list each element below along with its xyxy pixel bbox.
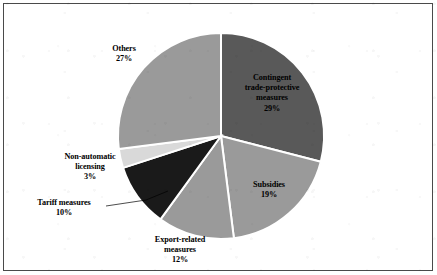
pie-label-others: Others 27%	[88, 44, 160, 64]
chart-page: Contingent trade-protective measures 29%…	[0, 0, 437, 275]
pie-label-contingent: Contingent trade-protective measures 29%	[228, 73, 316, 114]
pie-chart: Contingent trade-protective measures 29%…	[0, 0, 437, 275]
pie-label-subsidies: Subsidies 19%	[232, 180, 306, 200]
pie-label-non-automatic-licensing: Non-automatic licensing 3%	[46, 152, 134, 183]
pie-chart-svg	[0, 0, 437, 275]
pie-label-tariff-measures: Tariff measures 10%	[20, 198, 108, 218]
pie-label-export-related: Export-related measures 12%	[130, 235, 230, 266]
